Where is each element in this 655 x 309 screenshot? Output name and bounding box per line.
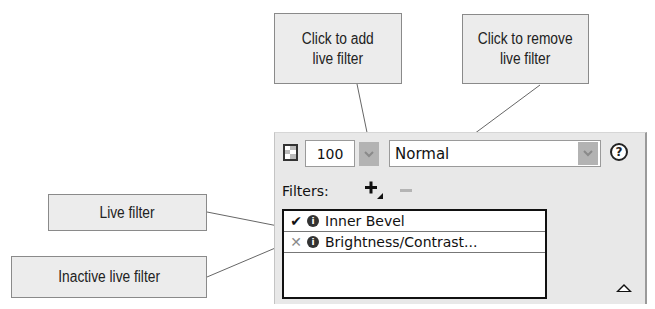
help-icon[interactable]: ? xyxy=(610,143,628,161)
opacity-value: 100 xyxy=(317,146,344,162)
filter-name: Brightness/Contrast... xyxy=(325,234,477,250)
x-icon[interactable]: ✕ xyxy=(287,234,305,250)
opacity-input[interactable]: 100 xyxy=(305,140,355,167)
add-filter-button[interactable] xyxy=(363,179,385,201)
callout-live-label: Live filter xyxy=(100,203,155,223)
chevron-down-icon xyxy=(583,150,593,157)
callout-add-line2: live filter xyxy=(302,49,374,69)
opacity-dropdown-button[interactable] xyxy=(359,142,379,166)
check-icon[interactable]: ✔ xyxy=(287,213,305,229)
callout-remove-line1: Click to remove xyxy=(478,29,573,49)
blend-mode-dropdown-button[interactable] xyxy=(578,142,598,165)
callout-live-filter: Live filter xyxy=(48,194,207,231)
blend-mode-select[interactable]: Normal xyxy=(389,140,601,167)
blend-mode-value: Normal xyxy=(395,145,449,163)
filter-list: ✔ i Inner Bevel ✕ i Brightness/Contrast.… xyxy=(282,209,547,299)
callout-inactive-filter: Inactive live filter xyxy=(11,256,207,298)
effects-panel: 100 Normal ? Filters: ✔ i Inner Bevel xyxy=(274,132,647,304)
callout-inactive-label: Inactive live filter xyxy=(58,267,160,287)
filter-name: Inner Bevel xyxy=(325,213,405,229)
collapse-triangle-icon[interactable] xyxy=(616,284,632,292)
info-icon[interactable]: i xyxy=(307,215,319,227)
filter-row-brightness-contrast[interactable]: ✕ i Brightness/Contrast... xyxy=(284,232,545,253)
plus-icon xyxy=(363,179,385,201)
callout-add-filter: Click to add live filter xyxy=(274,13,402,84)
filters-label: Filters: xyxy=(282,183,329,199)
callout-add-line1: Click to add xyxy=(302,29,374,49)
callout-remove-filter: Click to remove live filter xyxy=(462,14,589,84)
callout-remove-line2: live filter xyxy=(478,49,573,69)
filter-row-inner-bevel[interactable]: ✔ i Inner Bevel xyxy=(284,211,545,232)
info-icon[interactable]: i xyxy=(307,236,319,248)
opacity-icon xyxy=(283,144,298,161)
remove-filter-button[interactable] xyxy=(400,189,412,192)
chevron-down-icon xyxy=(364,151,374,158)
